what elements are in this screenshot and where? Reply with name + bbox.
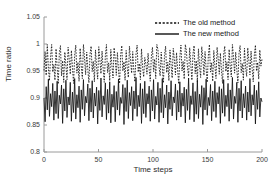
y-tick-label: 0.85 [8, 121, 40, 128]
legend-item-old-method: The old method [155, 17, 273, 28]
chart-figure: 0.80.850.90.9511.05 050100150200 Time ra… [0, 0, 279, 184]
y-tick-label: 0.8 [8, 148, 40, 155]
y-axis-title: Time ratio [5, 37, 13, 91]
chart-legend: The old method The new method [155, 17, 273, 39]
legend-label-old-method: The old method [183, 19, 235, 27]
series-line-old-method [44, 45, 262, 84]
y-tick-label: 0.9 [8, 94, 40, 101]
solid-line-sample [155, 30, 179, 38]
series-line-new-method [44, 77, 262, 124]
legend-item-new-method: The new method [155, 28, 273, 39]
legend-label-new-method: The new method [183, 30, 239, 38]
dashed-line-sample [155, 19, 179, 27]
x-tick-label: 50 [85, 156, 113, 163]
x-tick-label: 200 [248, 156, 276, 163]
x-tick-label: 0 [30, 156, 58, 163]
x-axis-title: Time steps [44, 166, 262, 174]
x-tick-label: 100 [139, 156, 167, 163]
y-tick-label: 1.05 [8, 13, 40, 20]
x-tick-label: 150 [194, 156, 222, 163]
